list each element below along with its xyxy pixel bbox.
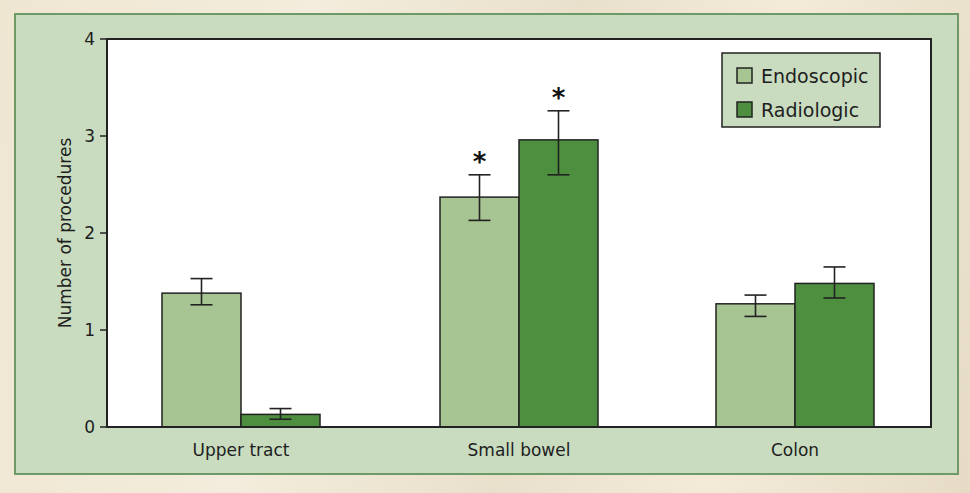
bar-endoscopic xyxy=(716,304,795,427)
bar-endoscopic xyxy=(440,197,519,427)
y-tick-label: 1 xyxy=(84,320,95,340)
legend-swatch-radiologic xyxy=(737,102,752,117)
y-tick-label: 3 xyxy=(84,126,95,146)
legend: Endoscopic Radiologic xyxy=(722,53,880,127)
bar-endoscopic xyxy=(162,293,241,427)
y-tick-label: 4 xyxy=(84,29,95,49)
y-tick-label: 0 xyxy=(84,417,95,437)
legend-swatch-endoscopic xyxy=(737,68,752,83)
x-axis: Upper tractSmall bowelColon xyxy=(193,440,820,460)
y-axis: 01234 xyxy=(84,29,107,437)
bar-radiologic xyxy=(795,283,874,427)
legend-label-endoscopic: Endoscopic xyxy=(761,65,869,87)
bar-chart: ** 01234 Upper tractSmall bowelColon Num… xyxy=(0,0,970,493)
legend-label-radiologic: Radiologic xyxy=(761,99,859,121)
bar-radiologic xyxy=(519,140,598,427)
y-axis-title: Number of procedures xyxy=(55,138,75,329)
y-tick-label: 2 xyxy=(84,223,95,243)
significance-star: * xyxy=(552,83,566,113)
significance-star: * xyxy=(473,147,487,177)
x-category-label: Colon xyxy=(771,440,819,460)
x-category-label: Upper tract xyxy=(193,440,290,460)
x-category-label: Small bowel xyxy=(468,440,571,460)
